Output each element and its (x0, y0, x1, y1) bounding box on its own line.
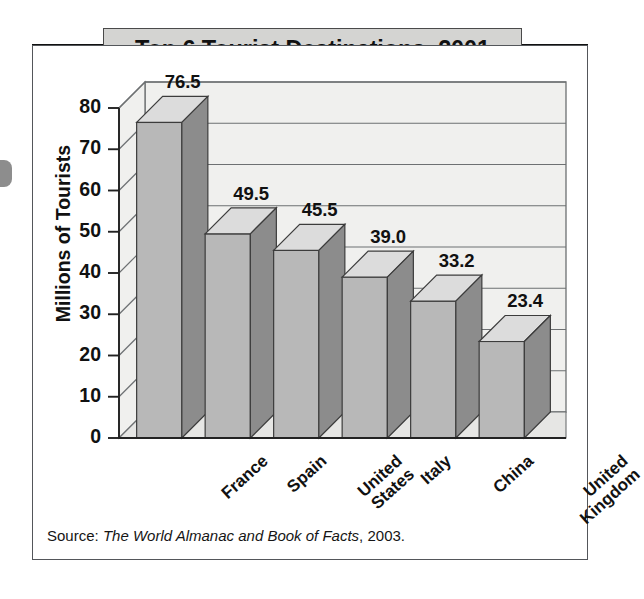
bar-side-face (456, 275, 482, 438)
bar-side-face (387, 251, 413, 438)
y-axis-tick-label: 70 (55, 136, 101, 159)
source-title: The World Almanac and Book of Facts (103, 527, 359, 544)
bar-3 (274, 224, 345, 438)
bar-value-label: 23.4 (507, 290, 543, 312)
source-note: Source: The World Almanac and Book of Fa… (47, 527, 405, 544)
figure-frame: Millions of Tourists 76.5France49.5Spain… (32, 45, 588, 560)
bar-chart-svg (33, 46, 589, 516)
bar-value-label: 76.5 (165, 71, 201, 93)
y-axis-tick-label: 0 (55, 425, 101, 448)
bar-side-face (319, 224, 345, 438)
y-axis-tick-label: 80 (55, 95, 101, 118)
bar-1 (137, 96, 208, 438)
y-axis-tick-label: 30 (55, 301, 101, 324)
chart-plot-area: Millions of Tourists 76.5France49.5Spain… (33, 46, 589, 516)
bar-6 (479, 315, 550, 438)
bar-side-face (250, 208, 276, 438)
bar-front-face (342, 277, 387, 438)
scan-artifact-blob (0, 160, 12, 187)
bar-5 (411, 275, 482, 438)
bar-front-face (411, 301, 456, 438)
bar-value-label: 49.5 (233, 183, 269, 205)
source-suffix: , 2003. (359, 527, 405, 544)
y-axis-tick-label: 20 (55, 343, 101, 366)
bar-side-face (182, 96, 208, 438)
bar-front-face (205, 234, 250, 438)
bar-value-label: 33.2 (439, 250, 475, 272)
bar-4 (342, 251, 413, 438)
y-axis-tick-label: 50 (55, 219, 101, 242)
bar-2 (205, 208, 276, 438)
bar-value-label: 39.0 (370, 226, 406, 248)
source-prefix: Source: (47, 527, 103, 544)
bar-front-face (479, 341, 524, 438)
bar-front-face (137, 122, 182, 438)
y-axis-tick-label: 10 (55, 384, 101, 407)
bar-value-label: 45.5 (302, 199, 338, 221)
bar-front-face (274, 250, 319, 438)
y-axis-tick-label: 60 (55, 178, 101, 201)
y-axis-tick-label: 40 (55, 260, 101, 283)
